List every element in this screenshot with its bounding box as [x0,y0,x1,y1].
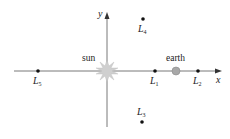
sun: sun [82,53,118,82]
x-axis-arrow-icon [215,69,222,74]
lagrange-point-L5: L5 [32,69,42,87]
svg-text:L1: L1 [149,75,159,87]
svg-text:L4: L4 [137,23,147,35]
svg-text:L3: L3 [136,106,146,118]
lagrange-point-L4: L4 [137,17,147,35]
point-dot-icon [141,17,145,21]
earth-label: earth [166,53,185,63]
lagrange-point-L3: L3 [136,106,146,124]
L1-subscript: 1 [156,81,159,87]
earth-icon [172,67,180,75]
L2-subscript: 2 [199,81,202,87]
lagrange-diagram: x y sun earth L1 L2 L3 L4 [0,0,230,139]
earth: earth [166,53,185,75]
y-axis-arrow-icon [105,12,110,19]
y-axis-label: y [97,8,103,19]
lagrange-point-L1: L1 [149,69,159,87]
svg-text:L5: L5 [32,75,42,87]
point-dot-icon [36,69,40,73]
L3-subscript: 3 [143,112,146,118]
x-axis-label: x [215,74,221,85]
L5-subscript: 5 [39,81,42,87]
point-dot-icon [196,69,200,73]
svg-text:L2: L2 [192,75,202,87]
axes: x y [14,8,222,127]
point-dot-icon [140,120,144,124]
point-dot-icon [153,69,157,73]
sun-label: sun [82,53,95,63]
L4-subscript: 4 [144,29,147,35]
lagrange-point-L2: L2 [192,69,202,87]
